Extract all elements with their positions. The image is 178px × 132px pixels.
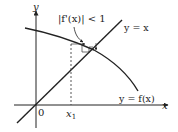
x1-label: x1 (66, 108, 76, 121)
condition-label: |f'(x)| < 1 (58, 13, 106, 25)
x-axis-label: x (162, 100, 168, 111)
cobweb-path (71, 43, 96, 52)
y-axis-label: y (32, 1, 39, 12)
origin-label: 0 (38, 107, 44, 118)
function-curve-label: y = f(x) (118, 93, 155, 104)
identity-line-label: y = x (123, 22, 149, 33)
condition-pointer (74, 27, 83, 42)
fixed-point-diagram: y x 0 |f'(x)| < 1 y = x y = f(x) x1 (0, 0, 178, 132)
